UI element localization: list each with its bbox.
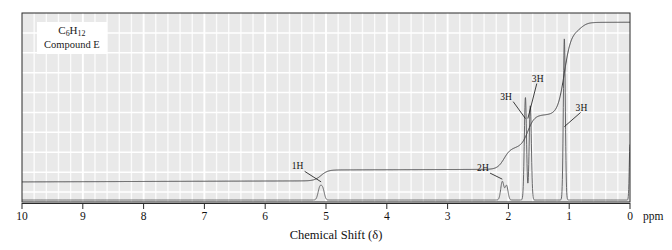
x-tick-label-3: 3	[436, 210, 460, 222]
x-axis	[22, 203, 630, 209]
x-tick-label-0: 0	[618, 210, 642, 222]
annotation-2h-1: 2H	[477, 163, 489, 173]
x-tick-label-1: 1	[557, 210, 581, 222]
annotation-1h-0: 1H	[292, 161, 304, 171]
x-tick-label-6: 6	[253, 210, 277, 222]
x-tick-label-4: 4	[375, 210, 399, 222]
compound-name: Compound E	[44, 39, 100, 51]
x-axis-title: Chemical Shift (δ)	[0, 228, 672, 243]
x-tick-label-5: 5	[314, 210, 338, 222]
annotation-3h-3: 3H	[532, 74, 544, 84]
x-tick-label-9: 9	[71, 210, 95, 222]
nmr-spectrum-figure: C6H12 Compound E 109876543210 ppm Chemic…	[0, 0, 672, 250]
ppm-unit-label: ppm	[643, 210, 663, 222]
x-tick-label-8: 8	[132, 210, 156, 222]
x-tick-label-7: 7	[192, 210, 216, 222]
x-tick-label-10: 10	[10, 210, 34, 222]
compound-label: C6H12 Compound E	[37, 22, 107, 54]
molecular-formula: C6H12	[44, 24, 100, 39]
annotation-3h-2: 3H	[500, 92, 512, 102]
annotation-3h-4: 3H	[576, 103, 588, 113]
x-tick-label-2: 2	[496, 210, 520, 222]
